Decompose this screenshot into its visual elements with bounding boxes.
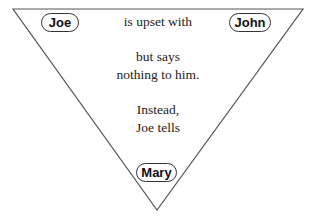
- node-john: John: [229, 13, 271, 32]
- description-line-2: nothing to him.: [90, 66, 226, 83]
- node-mary: Mary: [136, 163, 177, 182]
- description-line-4: Joe tells: [90, 119, 226, 136]
- node-joe: Joe: [41, 13, 79, 32]
- description-line-1: but says: [90, 48, 226, 65]
- relation-text: is upset with: [100, 13, 216, 30]
- description-line-3: Instead,: [90, 101, 226, 118]
